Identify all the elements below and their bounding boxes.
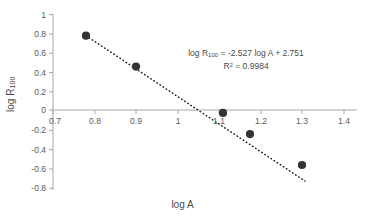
plot-area: 1 0.8 0.6 0.4 0.2 0 -0.2 -0.4 -0.6 -0.8 … (0, 0, 365, 221)
y-tick-label: -0.4 (24, 145, 46, 154)
y-axis-title-base: log R (5, 89, 16, 112)
y-tick-label: 0.4 (24, 68, 46, 77)
x-tick-label: 1.2 (255, 117, 267, 126)
data-point (132, 63, 140, 71)
y-tick-label: 1 (24, 10, 46, 19)
x-tick-label: 1.4 (338, 117, 350, 126)
r-squared-text: R2 = 0.9984 (176, 60, 316, 72)
y-axis-title-subscript: 100 (8, 77, 17, 89)
x-axis-title: log A (0, 199, 365, 210)
chart-container: 1 0.8 0.6 0.4 0.2 0 -0.2 -0.4 -0.6 -0.8 … (0, 0, 365, 221)
x-tick-label: 0.9 (130, 117, 142, 126)
y-tick-label: -0.6 (24, 165, 46, 174)
regression-equation-text: log R100 = -2.527 log A + 2.751 (176, 47, 316, 60)
data-point (82, 32, 90, 40)
x-tick-label: 0.8 (89, 117, 101, 126)
equation-subscript: 100 (208, 51, 218, 58)
y-axis-title: log R100 (5, 59, 18, 129)
x-tick-label: 1.3 (296, 117, 308, 126)
chart-canvas (0, 0, 365, 221)
y-tick-label: 0 (24, 106, 46, 115)
x-tick-label: 1 (176, 117, 181, 126)
y-tick-label: 0.8 (24, 30, 46, 39)
r-squared-suffix: = 0.9984 (233, 61, 269, 71)
equation-annotation: log R100 = -2.527 log A + 2.751 R2 = 0.9… (176, 47, 316, 73)
equation-suffix: = -2.527 log A + 2.751 (218, 48, 304, 58)
y-axis-ticks (49, 15, 53, 189)
equation-prefix: log R (188, 48, 208, 58)
x-tick-label: 0.7 (49, 117, 61, 126)
x-tick-label: 1.1 (213, 117, 225, 126)
y-tick-label: 0.2 (24, 88, 46, 97)
data-point (246, 130, 254, 138)
y-tick-label: -0.8 (24, 184, 46, 193)
y-tick-label: -0.2 (24, 126, 46, 135)
data-point (298, 161, 306, 169)
y-tick-label: 0.6 (24, 49, 46, 58)
x-axis-ticks (53, 110, 344, 114)
